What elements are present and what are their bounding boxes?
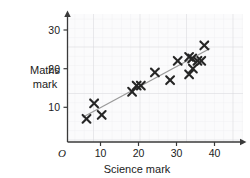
x-tick-label-20: 20 <box>133 147 145 159</box>
y-tick-label-30: 30 <box>48 24 60 36</box>
x-tick-label-10: 10 <box>95 147 107 159</box>
x-tick-label-30: 30 <box>171 147 183 159</box>
origin-label: O <box>58 147 66 159</box>
x-tick-label-40: 40 <box>209 147 221 159</box>
y-axis-label-line2: mark <box>33 78 58 90</box>
y-tick-label-10: 10 <box>48 101 60 113</box>
y-axis-label-line1: Maths <box>30 64 60 76</box>
x-axis-label: Science mark <box>104 163 171 175</box>
scatter-chart: 30 20 10 10 20 30 40 O Science mark Math… <box>0 0 250 178</box>
